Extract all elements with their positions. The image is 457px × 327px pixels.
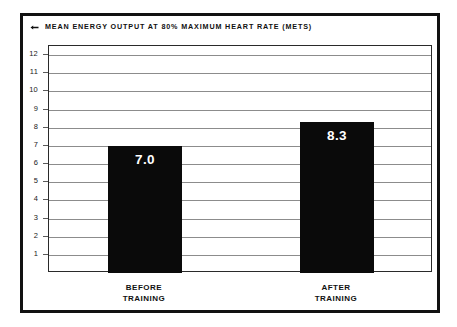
diamond-bullet-icon bbox=[30, 23, 39, 32]
y-axis-label: 6 bbox=[16, 159, 38, 167]
gridline bbox=[49, 55, 431, 56]
y-axis-label: 10 bbox=[16, 86, 38, 94]
y-axis-tick bbox=[43, 127, 48, 128]
x-axis-category-line: TRAINING bbox=[84, 294, 204, 305]
y-axis-tick bbox=[43, 236, 48, 237]
y-axis-tick bbox=[43, 109, 48, 110]
y-axis-label: 12 bbox=[16, 50, 38, 58]
y-axis-tick bbox=[43, 181, 48, 182]
y-axis-tick bbox=[43, 199, 48, 200]
chart-figure: MEAN ENERGY OUTPUT AT 80% MAXIMUM HEART … bbox=[0, 0, 457, 327]
y-axis-label: 9 bbox=[16, 105, 38, 113]
y-axis-label: 5 bbox=[16, 177, 38, 185]
bar: 8.3 bbox=[300, 122, 374, 273]
y-axis-tick bbox=[43, 218, 48, 219]
x-axis-category-line: BEFORE bbox=[84, 283, 204, 294]
y-axis-label: 7 bbox=[16, 141, 38, 149]
plot-inner: 7.08.3 bbox=[49, 46, 431, 271]
x-axis-category-label: AFTERTRAINING bbox=[276, 283, 396, 305]
chart-title: MEAN ENERGY OUTPUT AT 80% MAXIMUM HEART … bbox=[45, 23, 312, 30]
gridline bbox=[49, 73, 431, 74]
y-axis-tick bbox=[43, 90, 48, 91]
y-axis-tick bbox=[43, 163, 48, 164]
y-axis-label: 2 bbox=[16, 232, 38, 240]
x-axis-category-label: BEFORETRAINING bbox=[84, 283, 204, 305]
y-axis-label: 3 bbox=[16, 214, 38, 222]
x-axis-category-line: AFTER bbox=[276, 283, 396, 294]
plot-area: 7.08.3 bbox=[48, 45, 432, 272]
bar: 7.0 bbox=[108, 146, 182, 273]
y-axis-label: 1 bbox=[16, 250, 38, 258]
bar-value-label: 8.3 bbox=[300, 129, 374, 143]
y-axis-tick bbox=[43, 254, 48, 255]
y-axis-tick bbox=[43, 72, 48, 73]
y-axis-label: 8 bbox=[16, 123, 38, 131]
chart-title-row: MEAN ENERGY OUTPUT AT 80% MAXIMUM HEART … bbox=[30, 20, 312, 34]
gridline bbox=[49, 91, 431, 92]
x-axis-category-line: TRAINING bbox=[276, 294, 396, 305]
y-axis-tick bbox=[43, 54, 48, 55]
y-axis-tick bbox=[43, 145, 48, 146]
gridline bbox=[49, 110, 431, 111]
bar-value-label: 7.0 bbox=[108, 153, 182, 167]
y-axis-label: 4 bbox=[16, 195, 38, 203]
y-axis-label: 11 bbox=[16, 68, 38, 76]
